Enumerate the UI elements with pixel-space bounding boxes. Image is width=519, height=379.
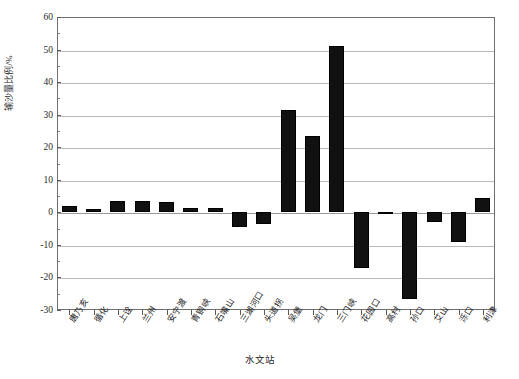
gridline	[58, 246, 494, 247]
y-axis-minor-tick-mark	[57, 196, 60, 197]
y-axis-minor-tick-mark	[57, 294, 60, 295]
y-axis-tick-label: -20	[23, 272, 53, 282]
y-axis-minor-tick-mark	[57, 164, 60, 165]
y-axis-tick-mark	[57, 277, 61, 278]
x-axis-title: 水文站	[0, 352, 519, 366]
bar-chart: 输沙量比例/% 6050403020100-10-20-30 唐乃亥循化上诠兰州…	[0, 0, 519, 379]
y-axis-tick-labels: 6050403020100-10-20-30	[20, 17, 53, 310]
y-axis-tick-label: 40	[23, 77, 53, 87]
y-axis-minor-tick-mark	[57, 33, 60, 34]
y-axis-minor-tick-mark	[57, 131, 60, 132]
gridline	[58, 116, 494, 117]
gridline	[58, 51, 494, 52]
y-axis-tick-mark	[57, 147, 61, 148]
gridline	[58, 148, 494, 149]
y-axis-minor-tick-mark	[57, 229, 60, 230]
y-axis-tick-mark	[57, 212, 61, 213]
y-axis-minor-tick-mark	[57, 66, 60, 67]
y-axis-tick-label: 20	[23, 142, 53, 152]
y-axis-tick-label: 0	[23, 207, 53, 217]
gridline	[58, 181, 494, 182]
y-axis-tick-label: -30	[23, 305, 53, 315]
y-axis-tick-mark	[57, 245, 61, 246]
gridline	[58, 278, 494, 279]
y-axis-tick-label: 10	[23, 175, 53, 185]
y-axis-minor-tick-mark	[57, 261, 60, 262]
plot-area	[57, 17, 495, 310]
y-axis-tick-label: 30	[23, 110, 53, 120]
y-axis-tick-label: 60	[23, 12, 53, 22]
gridline	[58, 83, 494, 84]
y-axis-tick-mark	[57, 310, 61, 311]
y-axis-title: 输沙量比例/%	[2, 28, 16, 138]
y-axis-tick-mark	[57, 115, 61, 116]
y-axis-tick-label: 50	[23, 45, 53, 55]
y-axis-tick-label: -10	[23, 240, 53, 250]
gridline	[58, 213, 494, 214]
y-axis-tick-mark	[57, 17, 61, 18]
y-axis-tick-mark	[57, 180, 61, 181]
y-axis-tick-mark	[57, 50, 61, 51]
y-axis-minor-tick-mark	[57, 98, 60, 99]
y-axis-tick-mark	[57, 82, 61, 83]
